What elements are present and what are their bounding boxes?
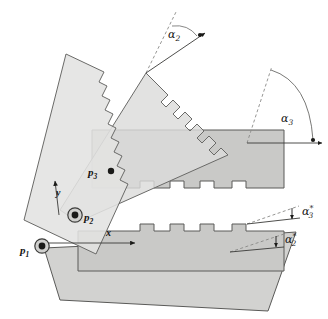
angle-label-alpha3-star-sub: 3 xyxy=(308,211,313,220)
joint-label-p1: p1 xyxy=(19,244,29,259)
joint-label-p2-sub: 2 xyxy=(89,217,94,226)
angle-label-alpha2: α2 xyxy=(168,28,180,43)
angle-label-alpha3-sub: 3 xyxy=(288,118,293,127)
x-axis-label: x xyxy=(105,227,111,238)
joint-label-p3-sub: 3 xyxy=(93,172,98,181)
angle-alpha3-star xyxy=(247,206,300,224)
svg-text:α3: α3 xyxy=(281,112,293,127)
angle-label-alpha2-star-sub: 2 xyxy=(290,239,296,248)
link-left xyxy=(24,54,128,254)
joint-label-p1-sub: 1 xyxy=(26,250,30,259)
svg-text:α*2: α*2 xyxy=(285,232,296,248)
angle-label-alpha3-star: α*3 xyxy=(302,204,313,220)
joint-p3 xyxy=(108,168,114,174)
svg-text:α*3: α*3 xyxy=(302,204,313,220)
linkage-diagram: p1 p2 p3 y x α2 α3 xyxy=(0,0,328,319)
angle-label-alpha3: α3 xyxy=(281,112,293,127)
y-axis-label: y xyxy=(55,187,61,198)
svg-text:α2: α2 xyxy=(168,28,180,43)
joint-p2 xyxy=(68,208,82,222)
joint-p1 xyxy=(35,239,49,253)
svg-text:p1: p1 xyxy=(19,244,29,259)
angle-label-alpha2-star: α*2 xyxy=(285,232,296,248)
angle-label-alpha2-sub: 2 xyxy=(174,34,180,43)
